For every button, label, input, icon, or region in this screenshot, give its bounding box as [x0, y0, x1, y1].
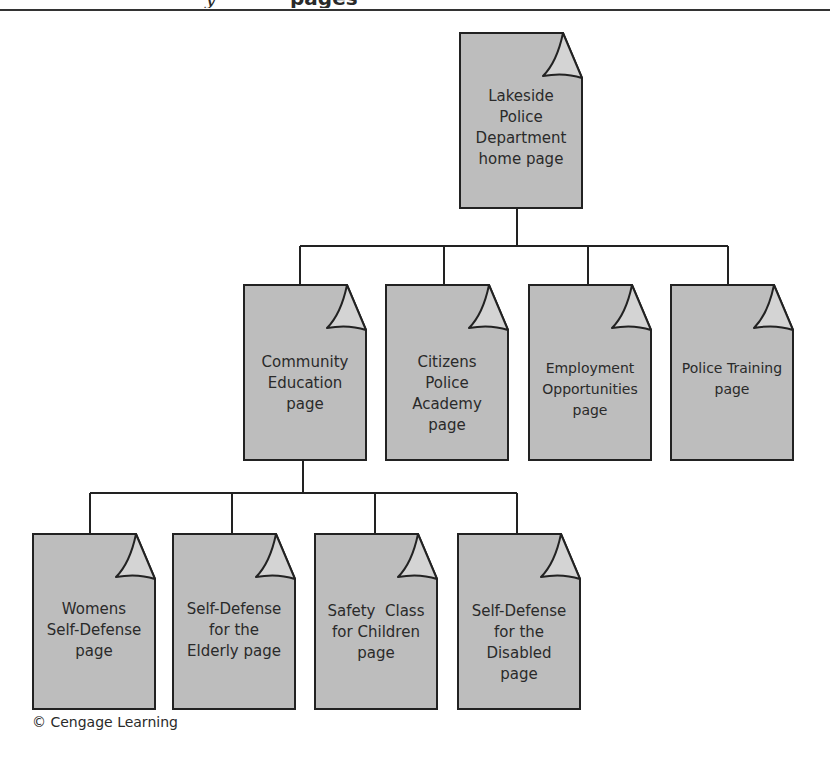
label-line: Police Training: [670, 358, 794, 379]
label-line: Citizens: [385, 352, 509, 373]
label-line: Department: [459, 128, 583, 149]
page-node-self-defense-elderly: Self-Defense for the Elderly page: [172, 533, 296, 710]
label-line: home page: [459, 149, 583, 170]
label-line: page: [670, 379, 794, 400]
page-label: Lakeside Police Department home page: [459, 86, 583, 170]
label-line: Womens: [32, 599, 156, 620]
label-line: Opportunities: [528, 379, 652, 400]
page-node-community-education: Community Education page: [243, 284, 367, 461]
label-line: Employment: [528, 358, 652, 379]
label-line: Academy: [385, 394, 509, 415]
page-node-safety-class-children: Safety Class for Children page: [314, 533, 438, 710]
label-line: page: [32, 641, 156, 662]
label-line: for the: [457, 622, 581, 643]
label-line: page: [243, 394, 367, 415]
page-label: Community Education page: [243, 352, 367, 415]
page-node-police-training: Police Training page: [670, 284, 794, 461]
label-line: for the: [172, 620, 296, 641]
page-label: Self-Defense for the Disabled page: [457, 601, 581, 685]
label-line: Safety Class: [314, 601, 438, 622]
page-node-citizens-police-academy: Citizens Police Academy page: [385, 284, 509, 461]
page-label: Self-Defense for the Elderly page: [172, 599, 296, 662]
page-label: Employment Opportunities page: [528, 358, 652, 421]
page-label: Womens Self-Defense page: [32, 599, 156, 662]
label-line: Self-Defense: [32, 620, 156, 641]
label-line: Lakeside: [459, 86, 583, 107]
label-line: page: [528, 400, 652, 421]
page-label: Police Training page: [670, 358, 794, 400]
label-line: page: [457, 664, 581, 685]
label-line: Community: [243, 352, 367, 373]
label-line: page: [385, 415, 509, 436]
label-line: Police: [459, 107, 583, 128]
label-line: Elderly page: [172, 641, 296, 662]
page-node-home: Lakeside Police Department home page: [459, 32, 583, 209]
page-label: Safety Class for Children page: [314, 601, 438, 664]
page-node-employment-opportunities: Employment Opportunities page: [528, 284, 652, 461]
label-line: Disabled: [457, 643, 581, 664]
label-line: for Children: [314, 622, 438, 643]
label-line: Self-Defense: [457, 601, 581, 622]
page-node-self-defense-disabled: Self-Defense for the Disabled page: [457, 533, 581, 710]
label-line: Police: [385, 373, 509, 394]
page-label: Citizens Police Academy page: [385, 352, 509, 436]
page-node-womens-self-defense: Womens Self-Defense page: [32, 533, 156, 710]
label-line: page: [314, 643, 438, 664]
label-line: Education: [243, 373, 367, 394]
label-line: Self-Defense: [172, 599, 296, 620]
copyright-credit: © Cengage Learning: [32, 714, 178, 730]
